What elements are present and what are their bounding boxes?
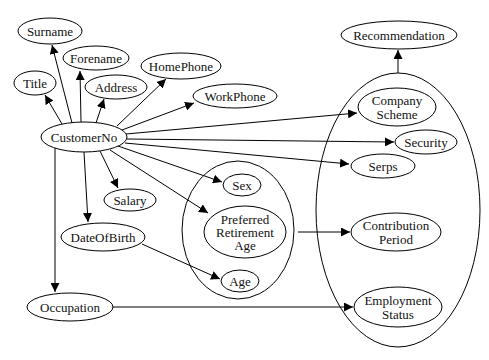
node-workphone: WorkPhone bbox=[193, 84, 277, 108]
node-surname: Surname bbox=[18, 18, 82, 44]
node-serps: Serps bbox=[351, 154, 415, 178]
svg-text:Age: Age bbox=[234, 238, 256, 253]
svg-text:Age: Age bbox=[229, 274, 251, 289]
svg-text:CustomerNo: CustomerNo bbox=[51, 130, 117, 145]
svg-text:Scheme: Scheme bbox=[376, 107, 417, 122]
svg-text:DateOfBirth: DateOfBirth bbox=[71, 230, 136, 245]
edge-customerno-dateofbirth bbox=[84, 152, 88, 222]
svg-text:Status: Status bbox=[382, 307, 414, 322]
edge-customerno-sex bbox=[118, 146, 222, 182]
svg-text:Employment: Employment bbox=[364, 293, 432, 308]
node-title: Title bbox=[14, 71, 56, 95]
svg-text:Period: Period bbox=[379, 232, 413, 247]
svg-text:Surname: Surname bbox=[27, 24, 73, 39]
svg-text:HomePhone: HomePhone bbox=[149, 59, 214, 74]
node-address: Address bbox=[85, 75, 147, 99]
node-recommendation: Recommendation bbox=[341, 21, 457, 49]
edge-customerno-title bbox=[45, 95, 62, 124]
svg-text:Security: Security bbox=[404, 135, 448, 150]
edge-customerno-companyscheme bbox=[126, 113, 357, 134]
svg-text:Recommendation: Recommendation bbox=[353, 28, 445, 43]
node-security: Security bbox=[395, 130, 457, 154]
svg-text:WorkPhone: WorkPhone bbox=[204, 89, 265, 104]
node-dateofbirth: DateOfBirth bbox=[61, 223, 145, 251]
edge-customerno-salary bbox=[100, 151, 118, 188]
node-sex: Sex bbox=[223, 174, 261, 196]
node-customerno: CustomerNo bbox=[41, 122, 127, 152]
edge-customerno-address bbox=[96, 99, 104, 123]
node-employment-status: Employment Status bbox=[354, 287, 442, 327]
node-contribution-period: Contribution Period bbox=[351, 213, 441, 251]
svg-text:Contribution: Contribution bbox=[363, 218, 430, 233]
svg-text:Occupation: Occupation bbox=[40, 300, 100, 315]
svg-text:Forename: Forename bbox=[70, 51, 122, 66]
edge-dateofbirth-age bbox=[142, 244, 220, 279]
svg-text:Title: Title bbox=[23, 76, 47, 91]
edge-customerno-security bbox=[127, 139, 394, 142]
svg-text:Address: Address bbox=[95, 80, 138, 95]
node-preferred-retirement-age: Preferred Retirement Age bbox=[204, 206, 286, 258]
node-homephone: HomePhone bbox=[141, 53, 221, 79]
edge-customerno-workphone bbox=[122, 103, 194, 130]
node-forename: Forename bbox=[63, 46, 129, 70]
svg-text:Serps: Serps bbox=[369, 159, 398, 174]
node-age: Age bbox=[221, 270, 259, 292]
svg-text:Sex: Sex bbox=[232, 178, 252, 193]
node-salary: Salary bbox=[104, 189, 156, 211]
diagram-canvas: Surname Forename Title Address HomePhone… bbox=[0, 0, 489, 360]
svg-text:Company: Company bbox=[372, 93, 423, 108]
node-occupation: Occupation bbox=[27, 293, 113, 321]
edge-customerno-forename bbox=[80, 71, 81, 122]
node-company-scheme: Company Scheme bbox=[358, 88, 436, 126]
svg-text:Salary: Salary bbox=[113, 193, 147, 208]
